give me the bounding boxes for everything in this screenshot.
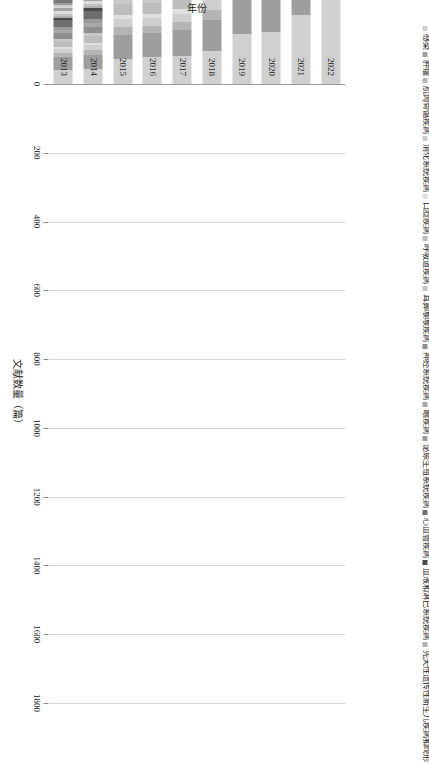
legend-label: 感染 bbox=[421, 34, 429, 50]
y-axis-tick-label: 2017 bbox=[177, 58, 187, 76]
bar-series-container bbox=[48, 84, 345, 703]
chart-legend: 感染肿瘤肌肉骨骼疾病消化系统疾病口腍疾病呼吸道疾病耳鼻喉喉疾病神经系统疾病眼疾病… bbox=[381, 0, 429, 764]
legend-swatch-icon bbox=[422, 194, 427, 199]
legend-swatch-icon bbox=[422, 402, 427, 407]
legend-label: 泌尿生殖系统疾病 bbox=[421, 444, 429, 508]
chart-figure: 感染肿瘤肌肉骨骼疾病消化系统疾病口腍疾病呼吸道疾病耳鼻喉喉疾病神经系统疾病眼疾病… bbox=[0, 0, 429, 764]
x-axis-tick-label: 1800 bbox=[31, 694, 41, 712]
bar-segment[interactable] bbox=[83, 27, 102, 34]
bar-row bbox=[232, 84, 251, 703]
bar-segment[interactable] bbox=[113, 19, 132, 27]
y-axis-tick-label: 2021 bbox=[295, 58, 305, 76]
legend-label: 血液和淋巴系统疾病 bbox=[421, 568, 429, 640]
bar-segment[interactable] bbox=[83, 33, 102, 35]
bar-row bbox=[321, 84, 340, 703]
bar-segment[interactable] bbox=[53, 20, 72, 27]
bar-segment[interactable] bbox=[53, 33, 72, 39]
y-axis-tick-label: 2015 bbox=[117, 58, 127, 76]
legend-item[interactable]: 肌肉骨骼疾病 bbox=[421, 78, 429, 134]
y-axis: 2022202120202019201820172016201520142013 bbox=[48, 40, 345, 82]
x-axis-tick-label: 1000 bbox=[31, 419, 41, 437]
x-axis-tick-label: 200 bbox=[31, 146, 41, 160]
x-axis-tick bbox=[43, 703, 48, 704]
plot-area bbox=[48, 84, 345, 703]
legend-swatch-icon bbox=[422, 78, 427, 83]
legend-label: 消化系统疾病 bbox=[421, 144, 429, 192]
legend-label: 口腍疾病 bbox=[421, 202, 429, 234]
y-axis-tick-label: 2022 bbox=[325, 58, 335, 76]
legend-item[interactable]: 血液和淋巴系统疾病 bbox=[421, 560, 429, 640]
x-axis-tick-label: 0 bbox=[31, 82, 41, 87]
legend-swatch-icon bbox=[422, 510, 427, 515]
y-axis-tick-label: 2013 bbox=[58, 58, 68, 76]
legend-swatch-icon bbox=[422, 26, 427, 31]
x-axis-tick bbox=[43, 359, 48, 360]
legend-item[interactable]: 耳鼻喉喉疾病 bbox=[421, 286, 429, 342]
x-axis-tick bbox=[43, 497, 48, 498]
legend-item[interactable]: 口腍疾病 bbox=[421, 194, 429, 234]
bar-row bbox=[53, 84, 72, 703]
y-axis-tick-label: 2019 bbox=[236, 58, 246, 76]
bar-row bbox=[83, 84, 102, 703]
bar-segment[interactable] bbox=[53, 30, 72, 32]
x-axis-tick-label: 1200 bbox=[31, 488, 41, 506]
legend-swatch-icon bbox=[422, 52, 427, 57]
x-axis-tick bbox=[43, 428, 48, 429]
legend-item[interactable]: 消化系统疾病 bbox=[421, 136, 429, 192]
legend-label: 眼疾病 bbox=[421, 410, 429, 434]
bar-segment[interactable] bbox=[53, 18, 72, 20]
legend-label: 先天性遗传性新生儿疾病和畸形 bbox=[421, 650, 429, 762]
legend-item[interactable]: 泌尿生殖系统疾病 bbox=[421, 436, 429, 508]
legend-item[interactable]: 呼吸道疾病 bbox=[421, 236, 429, 284]
bar-segment[interactable] bbox=[142, 18, 161, 26]
legend-item[interactable]: 先天性遗传性新生儿疾病和畸形 bbox=[421, 642, 429, 762]
y-axis-tick-label: 2018 bbox=[206, 58, 216, 76]
legend-swatch-icon bbox=[422, 344, 427, 349]
bar-segment[interactable] bbox=[83, 24, 102, 27]
bar-segment[interactable] bbox=[83, 19, 102, 23]
bar-row bbox=[172, 84, 191, 703]
x-axis-tick-label: 1600 bbox=[31, 625, 41, 643]
bar-segment[interactable] bbox=[113, 27, 132, 35]
legend-swatch-icon bbox=[422, 136, 427, 141]
y-axis-tick-label: 2014 bbox=[88, 58, 98, 76]
x-axis-tick-label: 800 bbox=[31, 352, 41, 366]
x-axis-tick bbox=[43, 153, 48, 154]
x-axis-tick bbox=[43, 290, 48, 291]
legend-item[interactable]: 心血管疾病 bbox=[421, 510, 429, 558]
legend-item[interactable]: 肿瘤 bbox=[421, 52, 429, 76]
x-axis-tick-label: 1400 bbox=[31, 556, 41, 574]
bar-segment[interactable] bbox=[53, 27, 72, 30]
y-axis-tick-label: 2020 bbox=[266, 58, 276, 76]
bar-row bbox=[142, 84, 161, 703]
x-axis-tick bbox=[43, 565, 48, 566]
x-axis-tick-label: 600 bbox=[31, 284, 41, 298]
legend-item[interactable]: 神经系统疾病 bbox=[421, 344, 429, 400]
legend-label: 呼吸道疾病 bbox=[421, 244, 429, 284]
bar-row bbox=[113, 84, 132, 703]
legend-item[interactable]: 感染 bbox=[421, 26, 429, 50]
legend-swatch-icon bbox=[422, 560, 427, 565]
x-axis-title: 文献数量（篇） bbox=[10, 84, 25, 703]
x-axis-tick bbox=[43, 222, 48, 223]
legend-label: 肌肉骨骼疾病 bbox=[421, 86, 429, 134]
legend-label: 肿瘤 bbox=[421, 60, 429, 76]
y-axis-title: 年份 bbox=[48, 0, 345, 16]
y-axis-tick-label: 2016 bbox=[147, 58, 157, 76]
legend-swatch-icon bbox=[422, 642, 427, 647]
legend-swatch-icon bbox=[422, 286, 427, 291]
legend-swatch-icon bbox=[422, 236, 427, 241]
x-axis-tick bbox=[43, 84, 48, 85]
bar-row bbox=[261, 84, 280, 703]
legend-label: 耳鼻喉喉疾病 bbox=[421, 294, 429, 342]
legend-label: 神经系统疾病 bbox=[421, 352, 429, 400]
x-axis-tick-label: 400 bbox=[31, 215, 41, 229]
bar-segment[interactable] bbox=[172, 22, 191, 30]
bar-segment[interactable] bbox=[142, 26, 161, 34]
legend-item[interactable]: 眼疾病 bbox=[421, 402, 429, 434]
legend-swatch-icon bbox=[422, 436, 427, 441]
bar-row bbox=[291, 84, 310, 703]
bar-row bbox=[202, 84, 221, 703]
legend-label: 心血管疾病 bbox=[421, 518, 429, 558]
y-axis-title-text: 年份 bbox=[187, 0, 207, 15]
